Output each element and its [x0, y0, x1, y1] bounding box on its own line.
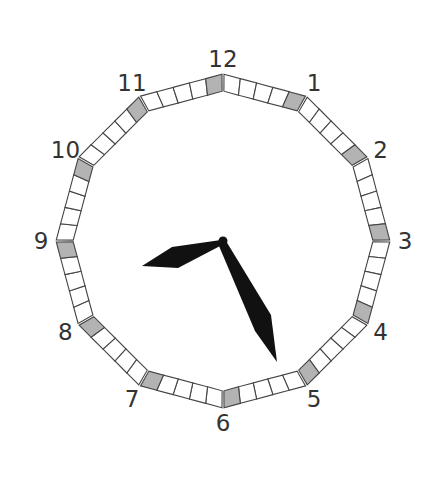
hour-label-12: 12 [208, 46, 237, 72]
minute-cell [206, 387, 222, 408]
minute-cell [224, 74, 240, 95]
hour-label-1: 1 [307, 70, 322, 96]
minute-cell [369, 242, 390, 258]
minute-cell [189, 79, 207, 100]
minute-cell [61, 257, 82, 275]
hour-label-8: 8 [58, 319, 73, 345]
hour-label-7: 7 [125, 386, 140, 412]
minute-cell [56, 224, 77, 240]
hour-label-9: 9 [34, 228, 49, 254]
center-pivot [219, 237, 228, 246]
hour-hand [142, 240, 222, 268]
minute-cell [365, 207, 386, 225]
hour-label-4: 4 [373, 319, 388, 345]
minute-cell-shaded [206, 74, 222, 95]
hour-label-10: 10 [51, 137, 80, 163]
minute-cell-shaded [224, 387, 240, 408]
clock-diagram: 121234567891011 [0, 0, 432, 490]
minute-cell [239, 383, 257, 404]
clock-face: 121234567891011 [0, 0, 432, 490]
hour-label-11: 11 [117, 70, 146, 96]
minute-hand [219, 241, 277, 362]
minute-cell-shaded [369, 224, 390, 240]
hour-label-5: 5 [307, 386, 322, 412]
hour-label-6: 6 [216, 410, 231, 436]
hour-label-2: 2 [373, 137, 388, 163]
minute-cell-shaded [56, 242, 77, 258]
hour-label-3: 3 [398, 228, 413, 254]
